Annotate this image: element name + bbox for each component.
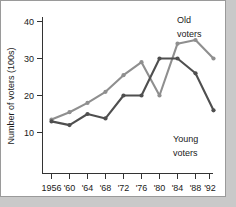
old-voters-point-'80: [157, 93, 161, 97]
y-tick-label-30: 30: [24, 54, 34, 64]
young-voters-point-'68: [103, 116, 107, 120]
x-tick-label-72: '72: [118, 183, 130, 193]
old-voters-point-'60: [67, 110, 71, 114]
y-axis: 40 30 20 10 Number of voters (100s): [6, 17, 43, 175]
y-tick-label-40: 40: [24, 17, 34, 27]
series-young-voters: [49, 56, 215, 127]
young-voters-point-'72: [121, 93, 125, 97]
young-voters-markers: [49, 56, 215, 127]
x-tick-label-64: '64: [82, 183, 94, 193]
young-voters-point-1956: [49, 119, 53, 123]
young-voters-label-line2: voters: [173, 148, 198, 158]
young-voters-annotation: Young voters: [173, 134, 198, 158]
y-axis-ticks: [37, 22, 43, 133]
old-voters-point-'92: [211, 56, 215, 60]
young-voters-point-'80: [157, 56, 161, 60]
young-voters-point-'64: [85, 112, 89, 116]
x-tick-label-68: '68: [100, 183, 112, 193]
y-tick-label-20: 20: [24, 91, 34, 101]
y-tick-label-10: 10: [24, 128, 34, 138]
old-voters-point-'64: [85, 101, 89, 105]
young-voters-point-'60: [67, 123, 71, 127]
young-voters-point-'92: [211, 108, 215, 112]
series-old-voters: [49, 38, 215, 122]
x-tick-label-1956: 1956: [41, 183, 61, 193]
young-voters-point-'84: [175, 56, 179, 60]
old-voters-point-'68: [103, 90, 107, 94]
young-voters-point-'76: [139, 93, 143, 97]
old-voters-point-'72: [121, 73, 125, 77]
x-axis: 1956 '60 '64 '68 '72 '76 '80 '84 '88 '92: [41, 174, 215, 194]
old-voters-line: [52, 40, 214, 120]
old-voters-point-'84: [175, 42, 179, 46]
x-tick-label-84: '84: [172, 183, 184, 193]
x-tick-label-92: '92: [204, 183, 216, 193]
old-voters-label-line1: Old: [177, 15, 191, 25]
x-axis-ticks: [52, 174, 210, 180]
old-voters-annotation: Old voters: [177, 15, 202, 39]
voters-line-chart: 40 30 20 10 Number of voters (100s) 1956…: [1, 1, 227, 198]
young-voters-label-line1: Young: [173, 134, 198, 144]
young-voters-point-'88: [193, 71, 197, 75]
old-voters-point-'76: [139, 60, 143, 64]
old-voters-label-line2: voters: [177, 29, 202, 39]
x-tick-label-80: '80: [154, 183, 166, 193]
y-axis-title: Number of voters (100s): [6, 47, 16, 144]
chart-figure-card: 40 30 20 10 Number of voters (100s) 1956…: [0, 0, 226, 197]
x-tick-label-76: '76: [136, 183, 148, 193]
x-tick-label-60: '60: [64, 183, 76, 193]
x-tick-label-88: '88: [190, 183, 202, 193]
